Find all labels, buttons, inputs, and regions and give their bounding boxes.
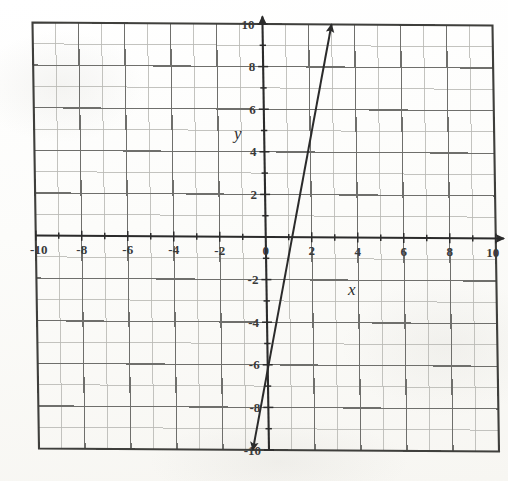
y-axis-tick-label: 2 xyxy=(251,187,258,202)
x-axis xyxy=(36,236,504,239)
y-axis-tick-label: -2 xyxy=(248,272,259,287)
y-axis-tick-label: -6 xyxy=(249,357,260,372)
y-axis-name-label: y xyxy=(232,124,242,143)
x-axis-tick-label: -4 xyxy=(168,242,179,257)
x-axis-tick-label: 0 xyxy=(263,243,270,258)
graph-canvas: -10-8-6-4-20246810108642-2-4-6-8-10yx xyxy=(0,0,508,481)
x-axis-tick-label: -2 xyxy=(214,243,225,258)
y-axis-tick-label: 8 xyxy=(249,59,256,74)
x-axis-tick-label: -6 xyxy=(122,242,133,257)
x-axis-tick-label: 6 xyxy=(401,244,408,259)
x-axis-tick-label: 10 xyxy=(486,245,499,260)
x-axis-tick-label: 2 xyxy=(309,243,316,258)
x-axis-name-label: x xyxy=(347,280,356,299)
x-axis-tick-label: 8 xyxy=(447,244,454,259)
y-axis-tick-label: 6 xyxy=(249,102,256,117)
y-axis-tick-label: 10 xyxy=(242,17,255,32)
coordinate-plane-figure: -10-8-6-4-20246810108642-2-4-6-8-10yx xyxy=(0,0,508,481)
y-axis-tick-label: 4 xyxy=(250,144,257,159)
y-axis-tick-label: -10 xyxy=(244,443,261,458)
x-axis-tick-label: -10 xyxy=(30,242,47,257)
y-axis-tick-label: -4 xyxy=(248,315,259,330)
x-axis-tick-label: 4 xyxy=(355,244,362,259)
x-axis-tick-label: -8 xyxy=(76,242,87,257)
